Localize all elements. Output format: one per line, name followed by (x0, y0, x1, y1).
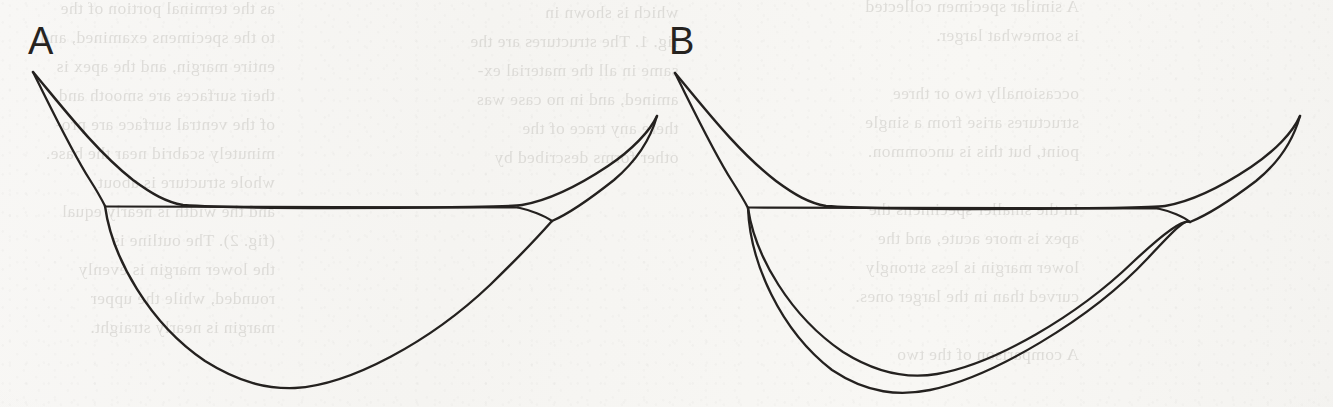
panel-a-upper-outer-edge (33, 72, 657, 208)
panel-b-apex-inner-edge (675, 73, 748, 208)
panel-label-b: B (669, 22, 694, 60)
panel-b-drawing (675, 73, 1300, 393)
scan-vignette (0, 0, 1333, 407)
figure-line-art (0, 0, 1333, 407)
panel-b-lower-margin-outer (748, 208, 1190, 393)
panel-a-chord-line (105, 207, 518, 208)
panel-label-a: A (28, 22, 53, 60)
panel-b-lower-margin-inner (748, 208, 1190, 376)
figure-plate: as the terminal portion of theto the spe… (0, 0, 1333, 407)
panel-a-beak-inner-edge (552, 116, 657, 221)
panel-b-chord-line (748, 208, 1158, 209)
ghost-text-column-1: as the terminal portion of theto the spe… (40, 0, 275, 342)
panel-a-drawing (33, 72, 657, 388)
ghost-text-column-3: A similar specimen collectedis somewhat … (855, 0, 1079, 369)
panel-a-apex-inner-edge (33, 72, 105, 206)
bleed-through-text-layer: as the terminal portion of theto the spe… (0, 0, 1333, 407)
panel-b-beak-inner-edge (1190, 116, 1300, 222)
ghost-text-column-2: which is shown infig. 1. The structures … (470, 0, 678, 172)
panel-b-right-junction-connector (1158, 209, 1190, 223)
panel-a-right-junction-connector (518, 208, 552, 222)
panel-a-lower-margin (105, 206, 552, 388)
paper-grain-texture (0, 0, 1333, 407)
panel-b-upper-outer-edge (675, 73, 1300, 209)
